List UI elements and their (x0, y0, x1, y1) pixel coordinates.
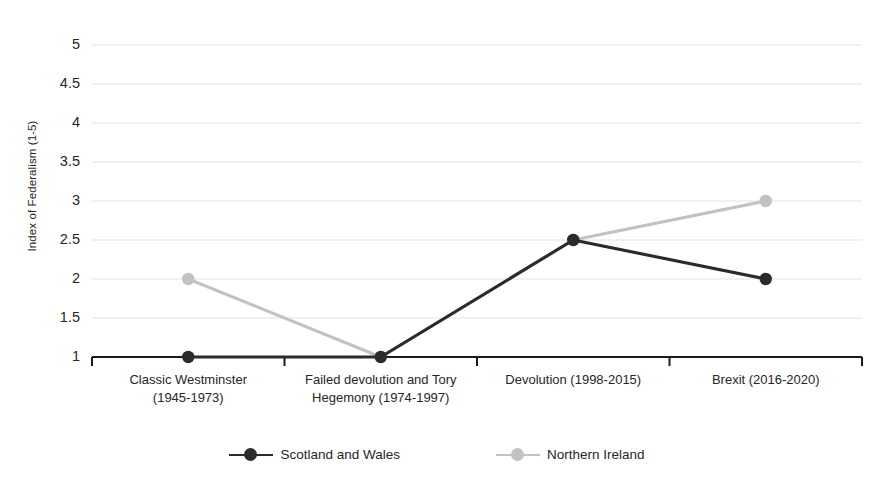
gridlines (92, 45, 862, 318)
data-point-marker (182, 351, 194, 363)
x-axis-category-label: Devolution (1998-2015) (477, 371, 670, 389)
legend-item[interactable]: Scotland and Wales (229, 447, 400, 462)
data-point-marker (567, 234, 579, 246)
y-axis-tick-label: 1 (40, 349, 80, 364)
y-axis-tick-label: 3 (40, 193, 80, 208)
data-point-marker (760, 273, 772, 285)
legend-dot-icon (244, 448, 257, 461)
x-axis-category-label: Failed devolution and ToryHegemony (1974… (285, 371, 478, 406)
x-axis-category-label: Classic Westminster(1945-1973) (92, 371, 285, 406)
legend-label: Scotland and Wales (280, 447, 400, 462)
x-axis-category-label-line: Devolution (1998-2015) (477, 371, 670, 389)
legend-dot-icon (511, 448, 524, 461)
federalism-index-line-chart: Index of Federalism (1-5) 11.522.533.544… (0, 0, 874, 494)
y-axis-tick-label: 2.5 (40, 232, 80, 247)
legend-label: Northern Ireland (547, 447, 645, 462)
x-axis-category-label: Brexit (2016-2020) (670, 371, 863, 389)
legend-marker-icon (496, 448, 540, 462)
y-axis-tick-label: 3.5 (40, 154, 80, 169)
data-point-marker (760, 195, 772, 207)
x-axis-category-label-line: Hegemony (1974-1997) (285, 389, 478, 407)
legend-item[interactable]: Northern Ireland (496, 447, 645, 462)
y-axis-title: Index of Federalism (1-5) (26, 76, 38, 296)
y-axis-tick-label: 5 (40, 37, 80, 52)
x-axis-category-label-line: Brexit (2016-2020) (670, 371, 863, 389)
plot-area (0, 0, 874, 494)
series-line (188, 240, 766, 357)
y-axis-tick-label: 4.5 (40, 76, 80, 91)
x-axis-category-label-line: Classic Westminster (92, 371, 285, 389)
y-axis-tick-label: 1.5 (40, 310, 80, 325)
y-axis-tick-label: 2 (40, 271, 80, 286)
data-point-marker (375, 351, 387, 363)
x-axis-category-label-line: Failed devolution and Tory (285, 371, 478, 389)
x-axis-category-label-line: (1945-1973) (92, 389, 285, 407)
data-point-marker (182, 273, 194, 285)
chart-legend: Scotland and WalesNorthern Ireland (0, 447, 874, 462)
legend-marker-icon (229, 448, 273, 462)
y-axis-tick-label: 4 (40, 115, 80, 130)
